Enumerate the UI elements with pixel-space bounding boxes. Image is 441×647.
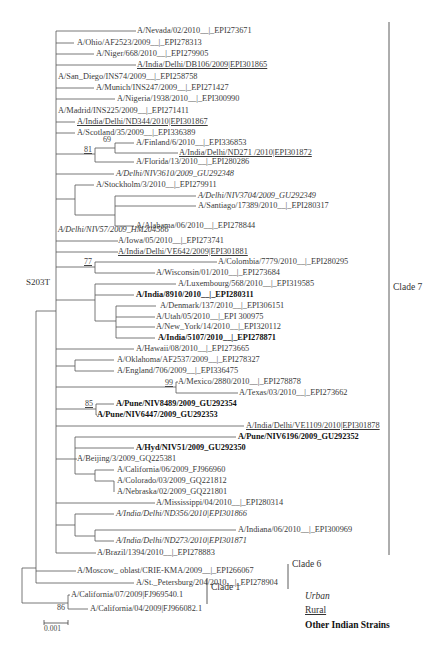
leaf-label: A/Delhi/NIV3610/2009_GU292348: [116, 169, 234, 179]
legend-other-indian-strains: Other Indian Strains: [305, 620, 390, 630]
leaf-label: A/Stockholm/3/2010__|_EPI279911: [96, 180, 217, 190]
leaf-label: A/Mexico/2880/2010__|_EPI278878: [178, 377, 301, 387]
leaf-label: A/Pune/NIV8489/2009_GU292354: [116, 399, 237, 409]
leaf-label: A/Ohio/AF2523/2009__|_EPI278313: [77, 38, 202, 48]
leaf-label: A/India/5107/2010__|_EPI278871: [158, 333, 276, 343]
leaf-label: A/India/Delhi/VE1109/2010|EPI301878: [246, 421, 380, 431]
leaf-label: A/Indiana/06/2010__|_EPI300969: [238, 525, 352, 535]
leaf-label: A/Utah/05/2010__|_EPI 300975: [156, 312, 263, 322]
leaf-label: A/England/706/2009__|_EPI336475: [117, 366, 238, 376]
clade-1-label: Clade 1: [211, 582, 240, 592]
leaf-label: A/Mississippi/04/2010__|_EPI280314: [156, 498, 283, 508]
clade-6-label: Clade 6: [292, 559, 321, 569]
leaf-label: A/Nevada/02/2010__|_EPI273671: [137, 26, 252, 36]
legend-urban: Urban: [305, 591, 330, 601]
leaf-label: A/Hyd/NIV51/2009_GU292350: [136, 443, 246, 453]
leaf-label: A/Delhi/NIV57/2009_HM204566: [58, 225, 169, 235]
leaf-label: A/Pune/NIV6447/2009_GU292353: [97, 410, 218, 420]
leaf-label: A/Hawaii/08/2010__|_EPI273665: [136, 344, 249, 354]
leaf-label: A/Colorado/03/2009_GQ221812: [117, 476, 227, 486]
leaf-label: A/Luxembourg/568/2010__|_EPI319585: [178, 279, 314, 289]
leaf-label: A/Denmark/137/2010__|_EPI306151: [160, 301, 284, 311]
leaf-label: A/Moscow_ oblast/CRIE-KMA/2009__|_EPI266…: [77, 566, 254, 576]
leaf-label: A/California/07/2009|FJ969540.1: [71, 590, 183, 600]
leaf-label: A/India/Delhi/ND273/2010|EPI301871: [116, 536, 247, 546]
leaf-label: A/Nigeria/1938/2010__|_EPI300990: [117, 94, 239, 104]
leaf-label: A/California/06/2009_FJ966960: [117, 465, 225, 475]
scale-bar-label: 0.001: [44, 624, 61, 633]
leaf-label: A/Brazil/1394/2010__|_EPI278883: [97, 548, 215, 558]
clade-7-label: Clade 7: [393, 282, 422, 292]
leaf-label: A/New_York/14/2010__|_EPI320112: [156, 322, 281, 332]
bootstrap-value: 99: [165, 378, 173, 387]
bootstrap-value: 77: [84, 257, 92, 266]
leaf-label: A/Pune/NIV6196/2009_GU292352: [238, 432, 359, 442]
leaf-label: A/Beijing/3/2009_GQ225381: [77, 454, 176, 464]
leaf-label: A/India/8910/2010__|_EPI280311: [136, 290, 254, 300]
leaf-label: A/Iowa/05/2010__|_EPI273741: [118, 236, 224, 246]
leaf-label: A/Nebraska/02/2009_GQ221801: [117, 487, 227, 497]
legend-rural: Rural: [305, 605, 326, 615]
bootstrap-value: 81: [84, 145, 92, 154]
leaf-label: A/Delhi/NIV3704/2009_GU292349: [198, 191, 316, 201]
leaf-label: A/Texas/03/2010__|_EPI273662: [239, 388, 347, 398]
bootstrap-value: 86: [57, 603, 65, 612]
leaf-label: A/India/Delhi/ND344/2010|EPI301867: [77, 117, 208, 127]
leaf-label: A/India/Delhi/ND356/2010|EPI301866: [116, 509, 247, 519]
leaf-label: A/India/Delhi/DB106/2009|EPI301865: [137, 60, 267, 70]
leaf-label: A/Colombia/7779/2010__|_EPI280295: [218, 257, 348, 267]
bootstrap-value: 69: [103, 135, 111, 144]
mutation-label: S203T: [26, 277, 50, 287]
leaf-label: A/California/04/2009|FJ966082.1: [90, 604, 202, 614]
leaf-label: A/India/Delhi/VE642/2009|EPI301881: [118, 247, 248, 257]
bootstrap-value: 85: [85, 399, 93, 408]
leaf-label: A/Oklahoma/AF2537/2009__|_EPI278327: [117, 355, 260, 365]
leaf-label: A/Santiago/17389/2010__|_EPI280317: [198, 201, 329, 211]
leaf-label: A/Florida/13/2010__|_EPI280286: [136, 157, 249, 167]
leaf-label: A/Madrid/INS225/2009__|_EPI271411: [58, 106, 189, 116]
leaf-label: A/Niger/668/2010__|_EPI279905: [96, 49, 208, 59]
leaf-label: A/Scotland/35/2009__|_EPI336389: [77, 128, 195, 138]
leaf-label: A/San_Diego/INS74/2009__|_EPI258758: [58, 72, 197, 82]
leaf-label: A/Finland/6/2010__|_EPI336853: [136, 138, 246, 148]
leaf-label: A/Wisconsin/01/2010__|_EPI273684: [156, 268, 280, 278]
leaf-label: A/Munich/INS247/2009__|_EPI271427: [96, 83, 229, 93]
leaf-label: A/St._Petersburg/204/2010__|_EPI278904: [136, 578, 278, 588]
